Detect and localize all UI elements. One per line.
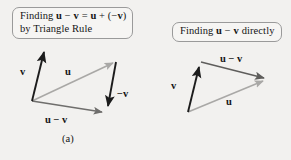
callout-direct: Finding u − v directly [172, 22, 282, 42]
label-u-minus-v-b: u − v [220, 53, 242, 64]
callout-a-close-paren: ) [123, 10, 127, 21]
vector-v-b [188, 67, 199, 112]
label-u-minus-v-a: u − v [45, 114, 67, 125]
caption-a: (a) [62, 133, 74, 144]
callout-b-suffix: directly [239, 25, 275, 36]
callout-triangle-rule: Finding u − v = u + (−v) by Triangle Rul… [12, 7, 133, 39]
panel-b: Finding u − v directly v u − [146, 0, 291, 160]
vector-subtraction-figure: Finding u − v = u + (−v) by Triangle Rul… [0, 0, 291, 160]
callout-a-line1: Finding u − v = u + (−v) [20, 10, 126, 21]
label-v-a: v [20, 66, 25, 77]
callout-a-plus: + (− [96, 10, 117, 21]
vector-u-a [32, 63, 113, 101]
label-v-b: v [171, 80, 176, 91]
callout-b-minus: − [222, 25, 233, 36]
vector-v-a [32, 52, 44, 101]
callout-b-prefix: Finding [180, 25, 216, 36]
callout-a-minus: − [62, 10, 73, 21]
callout-a-line2: by Triangle Rule [20, 23, 92, 34]
callout-a-prefix: Finding [20, 10, 56, 21]
vector-negative-v-a [108, 62, 116, 106]
vector-u-minus-v-a [32, 101, 102, 112]
label-negative-v-a: −v [117, 88, 128, 99]
callout-a-equals: = [79, 10, 90, 21]
label-u-a: u [65, 66, 71, 77]
label-u-b: u [226, 96, 232, 107]
vector-u-minus-v-b [201, 62, 264, 78]
panel-a: Finding u − v = u + (−v) by Triangle Rul… [0, 0, 146, 160]
